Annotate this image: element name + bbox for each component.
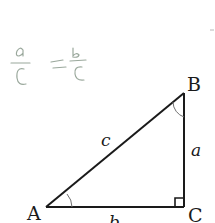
vertex-label-b: B (187, 73, 201, 95)
equals-bottom (53, 67, 66, 68)
handwritten-equation (11, 48, 86, 84)
fraction-bar-right (70, 60, 86, 61)
angle-arc-b (173, 102, 184, 117)
vertex-label-a: A (26, 202, 41, 223)
equals-top (51, 60, 63, 62)
side-label-b: b (109, 212, 120, 223)
side-label-a: a (191, 140, 201, 160)
hand-b-numerator (73, 48, 79, 57)
angle-arc-a (67, 194, 72, 207)
side-c-hypotenuse (46, 93, 184, 207)
side-label-c: c (101, 130, 111, 150)
hand-c-denominator-right (75, 67, 84, 80)
right-angle-marker (175, 198, 184, 207)
right-triangle-diagram: B A C c a b (0, 0, 215, 223)
triangle (46, 93, 184, 207)
hand-c-denominator-left (17, 69, 26, 85)
vertex-label-c: C (188, 204, 203, 223)
hand-a-numerator (16, 48, 23, 56)
